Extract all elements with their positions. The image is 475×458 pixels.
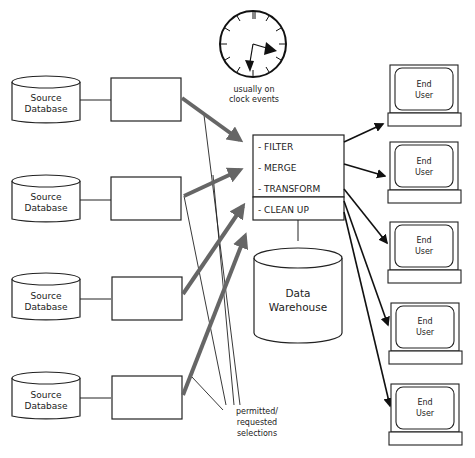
process-step-transform: - TRANSFORM	[258, 184, 320, 194]
source-database-4: Source Database	[12, 372, 80, 419]
extract-arrows	[182, 98, 245, 395]
data-warehouse-diagram: Source Database Source Database Source D…	[0, 0, 475, 458]
source-label: Database	[25, 302, 68, 312]
selections-note: permitted/	[236, 407, 278, 416]
process-step-cleanup: - CLEAN UP	[258, 205, 309, 215]
source-label: Source	[31, 390, 62, 400]
extract-boxes	[111, 78, 182, 419]
end-user-label: User	[415, 91, 434, 100]
distribution-arrows	[344, 124, 390, 406]
source-database-3: Source Database	[12, 273, 80, 320]
selections-note: requested	[237, 418, 277, 427]
end-user-label: End	[416, 80, 431, 89]
clock-icon	[220, 11, 286, 77]
source-connectors	[80, 100, 111, 398]
selections-note: selections	[237, 429, 277, 438]
end-user-label: End	[416, 236, 431, 245]
end-user-terminal-3: End User	[388, 222, 461, 283]
source-label: Source	[31, 192, 62, 202]
source-database-1: Source Database	[12, 76, 80, 123]
process-step-merge: - MERGE	[258, 163, 297, 173]
process-step-filter: - FILTER	[258, 142, 293, 152]
end-user-label: End	[417, 317, 432, 326]
end-user-label: User	[416, 409, 435, 418]
source-label: Database	[25, 104, 68, 114]
warehouse-label: Warehouse	[269, 301, 327, 313]
data-warehouse: Data Warehouse	[254, 248, 342, 343]
source-database-2: Source Database	[12, 175, 80, 222]
end-user-label: End	[417, 398, 432, 407]
end-user-label: User	[415, 168, 434, 177]
extract-box-3	[112, 277, 182, 320]
extract-box-1	[111, 78, 181, 121]
source-label: Database	[25, 401, 68, 411]
end-user-terminal-4: End User	[389, 303, 462, 364]
clock-label: clock events	[229, 95, 279, 104]
end-user-label: User	[416, 328, 435, 337]
extract-box-4	[112, 376, 182, 419]
end-user-label: End	[416, 157, 431, 166]
source-label: Source	[31, 93, 62, 103]
source-label: Database	[25, 203, 68, 213]
end-user-terminal-5: End User	[389, 384, 462, 445]
end-user-terminal-1: End User	[388, 65, 461, 126]
source-label: Source	[31, 291, 62, 301]
end-user-terminal-2: End User	[388, 142, 461, 203]
extract-box-2	[111, 177, 181, 220]
warehouse-label: Data	[285, 287, 310, 299]
process-box: - FILTER - MERGE - TRANSFORM	[253, 135, 344, 197]
clock-label: usually on	[234, 85, 275, 94]
end-user-label: User	[415, 247, 434, 256]
